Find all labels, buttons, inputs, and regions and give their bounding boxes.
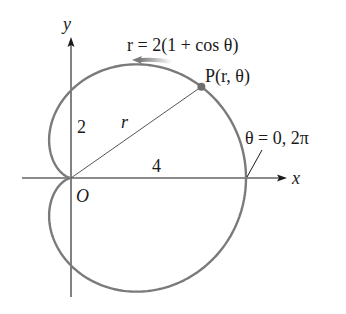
diagram-canvas: y x O 2 4 r r = 2(1 + cos θ) P(r, θ) θ =… xyxy=(0,0,346,314)
angle-label: θ = 0, 2π xyxy=(245,128,309,148)
y-axis-label: y xyxy=(61,14,71,34)
direction-arrow xyxy=(132,56,172,64)
y-axis xyxy=(68,37,75,297)
radius-segment xyxy=(71,87,201,178)
radius-label: r xyxy=(121,112,129,132)
angle-leader-line xyxy=(247,150,262,177)
x-axis-label: x xyxy=(291,168,300,188)
cardioid-diagram: y x O 2 4 r r = 2(1 + cos θ) P(r, θ) θ =… xyxy=(0,0,346,314)
x-intercept-label: 4 xyxy=(152,156,161,176)
point-label: P(r, θ) xyxy=(205,66,250,87)
equation-label: r = 2(1 + cos θ) xyxy=(127,35,238,56)
origin-label: O xyxy=(76,186,89,206)
y-intercept-label: 2 xyxy=(77,117,86,137)
